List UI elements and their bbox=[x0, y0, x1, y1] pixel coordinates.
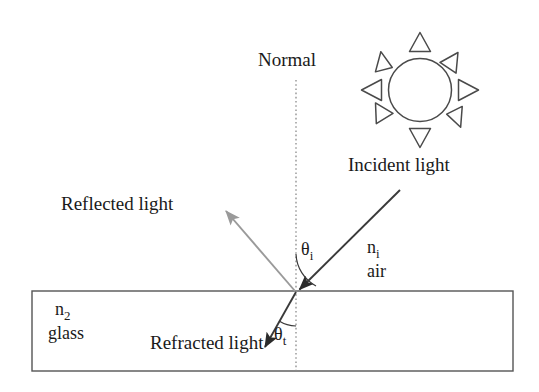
sun-icon bbox=[362, 33, 479, 148]
glass-slab bbox=[32, 291, 513, 371]
theta-t-symbol: θ bbox=[274, 324, 283, 344]
refracted-light-label: Refracted light bbox=[150, 333, 263, 353]
reflected-ray bbox=[226, 211, 295, 291]
n-2-symbol: n bbox=[55, 299, 64, 319]
angle-of-incidence-label: θi bbox=[301, 240, 313, 263]
optics-diagram: Normal Incident light Reflected light Re… bbox=[0, 0, 539, 392]
n-i-subscript: i bbox=[376, 246, 380, 261]
n-i-symbol: n bbox=[367, 237, 376, 257]
medium-air-label: air bbox=[367, 262, 386, 281]
angle-of-transmission-label: θt bbox=[274, 325, 286, 348]
sun-rays bbox=[362, 33, 479, 148]
theta-t-subscript: t bbox=[283, 333, 287, 348]
refractive-index-glass-label: n2 bbox=[55, 300, 70, 323]
normal-label: Normal bbox=[258, 50, 316, 70]
reflected-light-label: Reflected light bbox=[61, 194, 173, 214]
medium-glass-label: glass bbox=[48, 324, 84, 343]
incident-light-label: Incident light bbox=[348, 155, 450, 175]
sun-disc bbox=[389, 59, 452, 122]
theta-i-subscript: i bbox=[310, 248, 314, 263]
n-2-subscript: 2 bbox=[64, 308, 70, 323]
theta-i-symbol: θ bbox=[301, 239, 310, 259]
refractive-index-incident-label: ni bbox=[367, 238, 380, 261]
